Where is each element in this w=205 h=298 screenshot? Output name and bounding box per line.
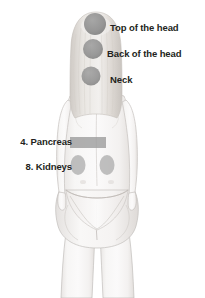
label-top-of-the-head: Top of the head: [110, 22, 179, 33]
female-figure-illustration: [0, 0, 205, 298]
label-pancreas: 4. Pancreas: [20, 136, 72, 147]
label-neck: Neck: [110, 74, 132, 85]
anatomy-diagram: Top of the head Back of the head Neck 4.…: [0, 0, 205, 298]
label-kidneys: 8. Kidneys: [25, 161, 72, 172]
label-back-of-the-head: Back of the head: [107, 48, 181, 59]
